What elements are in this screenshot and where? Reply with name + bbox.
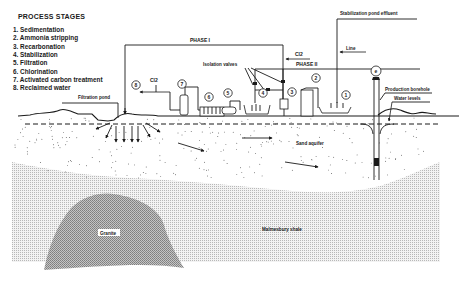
sand-dot — [401, 155, 402, 156]
sand-dot — [195, 160, 196, 161]
sand-dot — [76, 137, 77, 138]
reclamation-process-diagram: Granite Malmesbury shale Sand aquifer Fi… — [0, 0, 459, 281]
sand-dot — [343, 133, 344, 134]
sand-dot — [27, 147, 28, 148]
sand-dot — [99, 149, 100, 150]
sand-dot — [143, 172, 144, 173]
sand-dot — [110, 151, 111, 152]
sand-dot — [89, 121, 90, 122]
sand-dot — [53, 147, 54, 148]
sand-dot — [328, 156, 329, 157]
sand-dot — [63, 132, 64, 133]
legend-item: 2. Ammonia stripping — [13, 34, 78, 42]
filtration-pond-label: Filtration pond — [78, 95, 110, 100]
sand-dot — [363, 177, 364, 178]
sand-dot — [206, 170, 207, 171]
granite-label: Granite — [100, 231, 117, 236]
sand-dot — [241, 121, 242, 122]
sand-dot — [199, 140, 200, 141]
sand-dot — [301, 156, 302, 157]
sand-dot — [65, 144, 66, 145]
sand-dot — [224, 160, 225, 161]
sand-dot — [199, 168, 200, 169]
sand-dot — [182, 135, 183, 136]
sand-dot — [60, 147, 61, 148]
sand-dot — [289, 141, 290, 142]
sand-dot — [92, 157, 93, 158]
sand-dot — [115, 171, 116, 172]
sand-dot — [388, 138, 389, 139]
sand-dot — [303, 162, 304, 163]
sand-dot — [209, 127, 210, 128]
unit-stabilization — [244, 105, 270, 114]
sand-dot — [175, 174, 176, 175]
sand-dot — [48, 170, 49, 171]
sand-dot — [211, 177, 212, 178]
stage-marker-3: 3 — [288, 88, 296, 96]
sand-dot — [250, 147, 251, 148]
sand-dot — [127, 175, 128, 176]
sand-aquifer-label: Sand aquifer — [296, 141, 324, 146]
sand-dot — [140, 174, 141, 175]
stage-marker-4: 4 — [259, 89, 267, 97]
svg-text:3: 3 — [291, 89, 294, 95]
sand-dot — [191, 151, 192, 152]
sand-dot — [201, 148, 202, 149]
unit-sedimentation — [319, 107, 351, 113]
sand-dot — [243, 177, 244, 178]
sand-dot — [276, 132, 277, 133]
sand-dot — [36, 139, 37, 140]
phase2-label: PHASE II — [296, 61, 318, 67]
sand-dot — [116, 149, 117, 150]
sand-dot — [49, 122, 50, 123]
sand-dot — [65, 171, 66, 172]
sand-dot — [265, 126, 266, 127]
sand-dot — [273, 143, 274, 144]
line-label: Line — [346, 46, 356, 51]
legend-list: 1. Sedimentation2. Ammonia stripping3. R… — [13, 26, 103, 91]
sand-dot — [49, 119, 50, 120]
sand-dot — [362, 162, 363, 163]
cl2-left-label: Cl2 — [150, 77, 158, 83]
sand-dot — [299, 128, 300, 129]
sand-dot — [236, 174, 237, 175]
malmesbury-shale-label: Malmesbury shale — [262, 227, 302, 232]
sand-dot — [333, 157, 334, 158]
sand-dot — [85, 118, 86, 119]
sand-dot — [241, 172, 242, 173]
sand-dot — [105, 141, 106, 142]
sand-dot — [206, 151, 207, 152]
sand-dot — [52, 139, 53, 140]
sand-dot — [254, 130, 255, 131]
sand-dot — [112, 162, 113, 163]
sand-dot — [387, 174, 388, 175]
sand-dot — [389, 158, 390, 159]
sand-dot — [23, 136, 24, 137]
sand-dot — [111, 135, 112, 136]
sand-dot — [262, 175, 263, 176]
sand-dot — [128, 164, 129, 165]
sand-dot — [297, 127, 298, 128]
sand-dot — [352, 142, 353, 143]
sand-dot — [147, 136, 148, 137]
sand-dot — [204, 169, 205, 170]
sand-dot — [395, 158, 396, 159]
sand-dot — [355, 163, 356, 164]
sand-dot — [212, 132, 213, 133]
sand-dot — [38, 133, 39, 134]
sand-dot — [174, 123, 175, 124]
sand-dot — [418, 148, 419, 149]
sand-dot — [254, 172, 255, 173]
legend-item: 3. Recarbonation — [13, 43, 65, 50]
sand-dot — [342, 159, 343, 160]
sand-dot — [52, 136, 53, 137]
sand-dot — [330, 164, 331, 165]
svg-text:5: 5 — [227, 90, 230, 96]
sand-dot — [207, 118, 208, 119]
sand-dot — [204, 144, 205, 145]
sand-dot — [191, 131, 192, 132]
sand-dot — [236, 143, 237, 144]
sand-dot — [204, 162, 205, 163]
sand-dot — [262, 142, 263, 143]
sand-dot — [156, 173, 157, 174]
